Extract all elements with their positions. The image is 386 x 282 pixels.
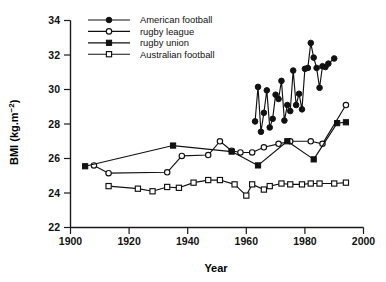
legend-entry-australian-football: Australian football <box>88 49 215 60</box>
data-point <box>308 139 313 144</box>
data-point <box>285 102 291 108</box>
bmi-by-sport-line-chart: BMI (kg.m−2) Year 22 24 26 28 30 32 34 <box>0 0 386 282</box>
data-point <box>206 152 211 157</box>
chart-canvas: BMI (kg.m−2) Year 22 24 26 28 30 32 34 <box>0 0 386 282</box>
data-point <box>106 184 111 189</box>
data-point <box>311 55 317 61</box>
legend-entry-rugby-league: rugby league <box>88 26 194 37</box>
x-axis-title: Year <box>204 262 228 274</box>
data-point <box>296 91 302 97</box>
x-axis-ticks <box>71 228 364 235</box>
data-point <box>305 65 311 71</box>
data-point <box>261 187 266 192</box>
data-point <box>282 118 288 124</box>
data-point <box>343 180 348 185</box>
data-point <box>288 182 293 187</box>
data-point <box>135 186 140 191</box>
data-point <box>191 180 196 185</box>
y-axis-title-text: BMI (kg.m−2) <box>7 99 21 165</box>
data-point <box>326 61 332 67</box>
y-tick-label: 32 <box>48 49 60 61</box>
y-tick-label: 28 <box>48 118 60 130</box>
series-line <box>85 122 346 166</box>
data-point <box>308 181 313 186</box>
legend-label: Australian football <box>140 49 215 60</box>
legend-label: rugby league <box>140 26 194 37</box>
data-point <box>299 107 305 113</box>
legend-entry-american-football: American football <box>88 14 212 25</box>
x-axis-tick-labels: 1900 1920 1940 1960 1980 2000 <box>59 235 376 247</box>
data-point <box>255 163 260 168</box>
series-rugby-union <box>83 120 349 169</box>
data-point <box>267 184 272 189</box>
y-tick-label: 22 <box>48 221 60 233</box>
data-point <box>299 182 304 187</box>
y-axis-title: BMI (kg.m−2) <box>7 99 21 165</box>
y-axis-tick-labels: 22 24 26 28 30 32 34 <box>48 14 60 233</box>
data-point <box>276 96 282 102</box>
data-point <box>179 153 184 158</box>
data-point <box>279 78 285 84</box>
data-point <box>164 170 169 175</box>
data-point <box>331 56 337 62</box>
data-point <box>106 170 111 175</box>
data-point <box>332 181 337 186</box>
data-point <box>317 85 323 91</box>
x-tick-label: 1920 <box>117 235 141 247</box>
data-point <box>83 164 88 169</box>
data-point <box>176 185 181 190</box>
data-point <box>317 181 322 186</box>
series-american-football <box>252 40 337 134</box>
data-point <box>252 119 258 125</box>
data-point <box>255 84 261 90</box>
data-point <box>279 181 284 186</box>
data-point <box>290 68 296 74</box>
data-point <box>314 65 320 71</box>
data-point <box>261 145 266 150</box>
legend-entry-rugby-union: rugby union <box>88 37 189 48</box>
series-layer <box>83 40 349 198</box>
data-point <box>249 150 254 155</box>
y-tick-label: 24 <box>48 187 60 199</box>
y-tick-label: 34 <box>48 14 60 26</box>
data-point <box>217 177 222 182</box>
data-point <box>311 157 316 162</box>
data-point <box>217 139 222 144</box>
data-point <box>343 120 348 125</box>
data-point <box>165 184 170 189</box>
data-point <box>261 110 267 116</box>
data-point <box>270 116 276 122</box>
data-point <box>232 182 237 187</box>
x-tick-label: 1940 <box>176 235 200 247</box>
legend-marker-filled-square <box>106 40 111 45</box>
data-point <box>244 193 249 198</box>
legend-label: American football <box>140 14 212 25</box>
legend-marker-open-circle <box>106 29 111 34</box>
x-tick-label: 2000 <box>352 235 376 247</box>
legend-marker-filled-circle <box>106 17 112 23</box>
data-point <box>308 40 314 46</box>
data-point <box>264 88 270 94</box>
x-tick-label: 1980 <box>293 235 317 247</box>
data-point <box>150 189 155 194</box>
data-point <box>267 125 273 131</box>
data-point <box>343 102 348 107</box>
data-point <box>229 149 234 154</box>
y-tick-label: 30 <box>48 83 60 95</box>
series-australian-football <box>106 177 349 198</box>
data-point <box>287 108 293 114</box>
data-point <box>276 141 281 146</box>
data-point <box>238 150 243 155</box>
data-point <box>170 143 175 148</box>
series-rugby-league <box>91 102 348 176</box>
y-axis-ticks <box>64 21 71 228</box>
chart-legend: American footballrugby leaguerugby union… <box>88 14 215 59</box>
x-tick-label: 1900 <box>59 235 83 247</box>
legend-label: rugby union <box>140 37 189 48</box>
data-point <box>206 177 211 182</box>
data-point <box>258 129 264 135</box>
legend-marker-open-square <box>106 52 111 57</box>
x-tick-label: 1960 <box>235 235 259 247</box>
data-point <box>335 121 340 126</box>
y-tick-label: 26 <box>48 152 60 164</box>
